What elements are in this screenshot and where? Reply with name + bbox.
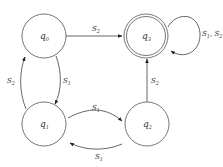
state-q2: q2	[125, 102, 169, 146]
svg-text:S2: S2	[92, 25, 100, 34]
svg-text:S1: S1	[95, 153, 103, 162]
edge-q1-q2: S1	[68, 104, 122, 121]
svg-text:S1: S1	[63, 77, 71, 86]
svg-text:S1: S1	[92, 104, 100, 113]
svg-text:S2: S2	[7, 77, 15, 86]
edge-q3-self-loop: S1, S2	[168, 16, 222, 54]
svg-text:S1, S2: S1, S2	[202, 30, 222, 39]
edge-q1-q0: S2	[7, 57, 26, 109]
edge-q0-q1: S1	[55, 56, 71, 104]
edge-q2-q3: S2	[147, 59, 159, 102]
state-q1: q1	[22, 102, 66, 146]
state-q3-accepting: q3	[124, 14, 168, 58]
svg-text:S2: S2	[151, 77, 159, 86]
edge-q2-q1: S1	[70, 143, 122, 162]
automaton-diagram: S2 S1 S2 S1 S1 S2 S1, S2 q0 q3	[0, 0, 223, 167]
edge-q0-q3: S2	[66, 25, 122, 36]
state-q0: q0	[22, 14, 66, 58]
